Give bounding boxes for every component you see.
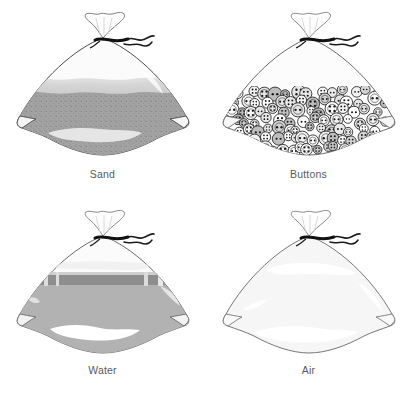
bag-illustration-grid: Sand xyxy=(0,0,411,395)
sand-bag-icon xyxy=(0,0,205,170)
bag-neck xyxy=(85,210,124,236)
bag-label-buttons: Buttons xyxy=(206,168,411,180)
water-fill xyxy=(0,261,205,368)
bag-cell-air: Air xyxy=(206,198,411,395)
bag-label-air: Air xyxy=(206,364,411,376)
bag-neck xyxy=(291,12,330,38)
bag-label-water: Water xyxy=(0,364,205,376)
buttons-bag-icon xyxy=(206,0,411,170)
water-bag-icon xyxy=(0,198,205,368)
bag-cell-water: Water xyxy=(0,198,205,395)
bag-neck xyxy=(85,12,124,38)
bag-cell-buttons: Buttons xyxy=(206,0,411,197)
bag-label-sand: Sand xyxy=(0,168,205,180)
bag-neck xyxy=(291,210,330,236)
sand-fill xyxy=(8,70,198,170)
air-bag-icon xyxy=(206,198,411,368)
bag-cell-sand: Sand xyxy=(0,0,205,197)
